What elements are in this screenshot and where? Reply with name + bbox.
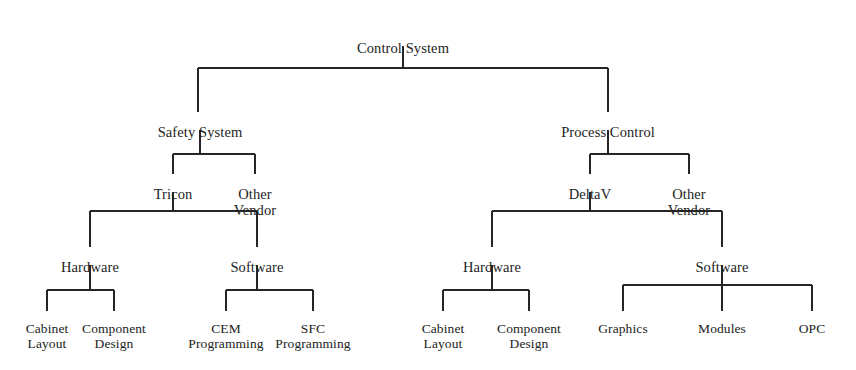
tree-node-safety-other-vendor: Other Vendor [234, 186, 276, 218]
tree-node-tricon: Tricon [154, 186, 193, 202]
control-system-hierarchy-diagram: Control SystemSafety SystemProcess Contr… [0, 0, 856, 370]
tree-node-deltav: DeltaV [569, 186, 611, 202]
tree-node-tricon-software: Software [230, 259, 283, 275]
tree-node-safety-system: Safety System [158, 124, 243, 140]
tree-node-process-other-vendor: Other Vendor [668, 186, 710, 218]
tree-node-deltav-software: Software [695, 259, 748, 275]
tree-node-cem-programming: CEM Programming [188, 321, 263, 351]
tree-node-deltav-hardware: Hardware [463, 259, 521, 275]
tree-node-deltav-component-design: Component Design [497, 321, 561, 351]
tree-node-tricon-component-design: Component Design [82, 321, 146, 351]
tree-node-sfc-programming: SFC Programming [275, 321, 350, 351]
tree-node-opc: OPC [799, 321, 826, 336]
tree-node-modules: Modules [698, 321, 746, 336]
tree-node-process-control: Process Control [561, 124, 655, 140]
tree-node-control-system: Control System [357, 40, 449, 56]
tree-node-tricon-cabinet-layout: Cabinet Layout [26, 321, 69, 351]
tree-node-tricon-hardware: Hardware [61, 259, 119, 275]
tree-node-graphics: Graphics [598, 321, 648, 336]
tree-node-deltav-cabinet-layout: Cabinet Layout [422, 321, 465, 351]
